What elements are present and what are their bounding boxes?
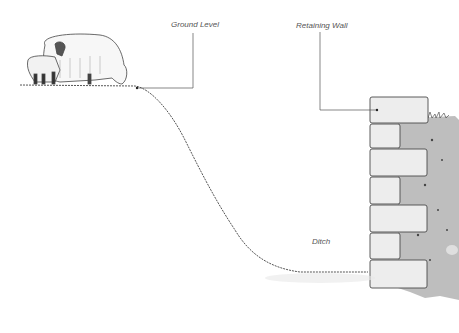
ground-level-leader (137, 33, 193, 88)
ditch-label: Ditch (312, 237, 330, 246)
ha-ha-diagram: Ground Level Retaining Wall Ditch (0, 0, 459, 333)
sheep-illustration (27, 34, 126, 84)
diagram-illustration (0, 0, 459, 333)
retaining-wall-label: Retaining Wall (296, 21, 347, 30)
retaining-wall-leader (320, 32, 377, 110)
ground-level-label: Ground Level (171, 20, 219, 29)
